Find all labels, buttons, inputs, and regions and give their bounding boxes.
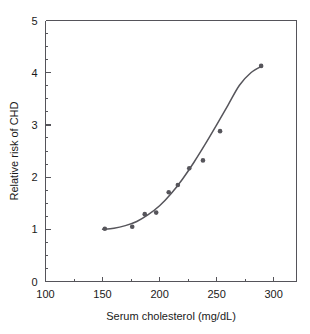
data-point bbox=[187, 166, 192, 171]
data-point bbox=[218, 129, 223, 134]
y-tick-label: 0 bbox=[31, 276, 37, 288]
data-point bbox=[201, 158, 206, 163]
data-point bbox=[154, 210, 159, 215]
x-tick-label: 100 bbox=[36, 288, 54, 300]
x-tick-label: 150 bbox=[93, 288, 111, 300]
data-point bbox=[259, 64, 264, 69]
x-tick-label: 250 bbox=[207, 288, 225, 300]
x-tick-label: 300 bbox=[265, 288, 283, 300]
data-point bbox=[130, 224, 135, 229]
data-point bbox=[166, 190, 171, 195]
chd-risk-scatter-chart: 012345 100150200250300 Serum cholesterol… bbox=[0, 0, 310, 334]
data-point bbox=[103, 226, 108, 231]
y-tick-label: 4 bbox=[31, 67, 37, 79]
y-tick-label: 3 bbox=[31, 119, 37, 131]
y-tick-label: 5 bbox=[31, 15, 37, 27]
x-tick-label: 200 bbox=[150, 288, 168, 300]
y-tick-label: 1 bbox=[31, 223, 37, 235]
y-tick-label: 2 bbox=[31, 171, 37, 183]
x-axis-title: Serum cholesterol (mg/dL) bbox=[106, 310, 236, 322]
chart-background bbox=[0, 0, 310, 334]
chart-container: 012345 100150200250300 Serum cholesterol… bbox=[0, 0, 310, 334]
y-axis-title: Relative risk of CHD bbox=[8, 101, 20, 200]
data-point bbox=[176, 183, 181, 188]
data-point bbox=[142, 212, 147, 217]
